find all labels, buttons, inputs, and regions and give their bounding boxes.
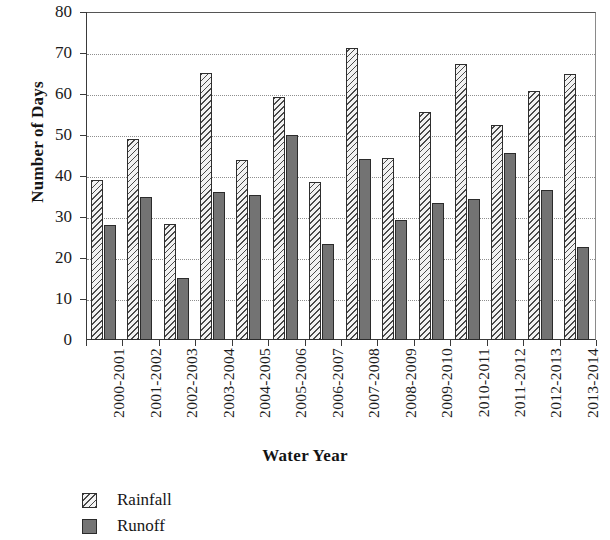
x-tick-mark <box>523 340 524 346</box>
bar-runoff <box>504 153 516 340</box>
legend-item: Rainfall <box>82 487 172 513</box>
bar-runoff <box>468 199 480 340</box>
x-tick-label: 2008-2009 <box>402 348 420 438</box>
bar-runoff <box>432 203 444 340</box>
x-tick-label: 2000-2001 <box>110 348 128 438</box>
filled-square-icon <box>82 519 97 534</box>
bar-runoff <box>140 197 152 341</box>
bar-series-container <box>86 12 596 340</box>
y-tick-label: 60 <box>8 84 72 104</box>
bar-rainfall <box>419 112 431 340</box>
x-tick-mark <box>305 340 306 346</box>
bar-group <box>159 12 195 340</box>
legend-label: Runoff <box>117 516 165 536</box>
x-tick-label: 2003-2004 <box>220 348 238 438</box>
x-tick-label: 2012-2013 <box>547 348 565 438</box>
bar-group <box>414 12 450 340</box>
bar-rainfall <box>382 158 394 340</box>
bar-runoff <box>104 225 116 340</box>
bar-rainfall <box>273 97 285 340</box>
bar-runoff <box>322 244 334 340</box>
bar-runoff <box>177 278 189 340</box>
bar-group <box>195 12 231 340</box>
y-tick-label: 70 <box>8 43 72 63</box>
x-tick-mark <box>195 340 196 346</box>
bar-runoff <box>359 159 371 340</box>
bar-group <box>232 12 268 340</box>
x-axis-title: Water Year <box>0 446 610 466</box>
bar-group <box>86 12 122 340</box>
bar-group <box>305 12 341 340</box>
bar-rainfall <box>455 64 467 340</box>
legend-item: Runoff <box>82 513 172 539</box>
legend-label: Rainfall <box>117 490 172 510</box>
bar-group <box>268 12 304 340</box>
x-tick-label: 2002-2003 <box>183 348 201 438</box>
bar-runoff <box>395 220 407 340</box>
x-tick-label: 2009-2010 <box>438 348 456 438</box>
chart-legend: RainfallRunoff <box>82 487 172 539</box>
bar-group <box>523 12 559 340</box>
y-tick-label: 80 <box>8 2 72 22</box>
x-tick-label: 2011-2012 <box>511 348 529 438</box>
x-tick-mark <box>86 340 87 346</box>
bar-runoff <box>541 190 553 340</box>
x-tick-label: 2004-2005 <box>256 348 274 438</box>
bar-rainfall <box>200 73 212 340</box>
x-tick-mark <box>232 340 233 346</box>
y-tick-label: 30 <box>8 207 72 227</box>
bar-rainfall <box>346 48 358 340</box>
x-tick-label: 2005-2006 <box>292 348 310 438</box>
x-tick-label: 2013-2014 <box>584 348 602 438</box>
x-tick-mark <box>341 340 342 346</box>
x-tick-mark <box>268 340 269 346</box>
bar-group <box>560 12 596 340</box>
x-tick-label: 2001-2002 <box>147 348 165 438</box>
x-tick-label: 2007-2008 <box>365 348 383 438</box>
bar-group <box>450 12 486 340</box>
x-tick-mark <box>487 340 488 346</box>
x-tick-mark <box>414 340 415 346</box>
bar-group <box>377 12 413 340</box>
y-tick-label: 0 <box>8 330 72 350</box>
y-tick-label: 50 <box>8 125 72 145</box>
bar-group <box>122 12 158 340</box>
bar-rainfall <box>564 74 576 340</box>
bar-group <box>341 12 377 340</box>
bar-runoff <box>286 135 298 340</box>
y-tick-label: 10 <box>8 289 72 309</box>
bar-group <box>487 12 523 340</box>
x-tick-mark <box>560 340 561 346</box>
bar-rainfall <box>236 160 248 340</box>
x-tick-mark <box>122 340 123 346</box>
x-tick-mark <box>377 340 378 346</box>
bar-chart: Number of Days 01020304050607080 2000-20… <box>0 0 610 540</box>
bar-runoff <box>213 192 225 340</box>
bar-rainfall <box>528 91 540 340</box>
y-tick-label: 20 <box>8 248 72 268</box>
x-tick-mark <box>450 340 451 346</box>
x-tick-mark <box>159 340 160 346</box>
x-tick-label: 2006-2007 <box>329 348 347 438</box>
bar-rainfall <box>127 139 139 340</box>
bar-rainfall <box>309 182 321 340</box>
bar-rainfall <box>91 180 103 340</box>
hatched-square-icon <box>82 493 97 508</box>
bar-rainfall <box>164 224 176 340</box>
x-tick-mark <box>596 340 597 346</box>
bar-runoff <box>577 247 589 340</box>
bar-rainfall <box>491 125 503 340</box>
y-tick-label: 40 <box>8 166 72 186</box>
x-tick-label: 2010-2011 <box>475 348 493 438</box>
bar-runoff <box>249 195 261 340</box>
